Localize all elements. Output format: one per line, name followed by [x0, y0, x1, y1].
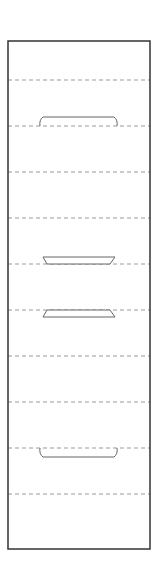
upper-trapezoid-shape	[43, 257, 115, 264]
dashed-fold-lines	[8, 80, 150, 494]
bottom-slot-shape	[40, 448, 117, 457]
diagram-canvas	[0, 0, 159, 574]
top-slot-shape	[40, 117, 117, 126]
lower-trapezoid-shape	[43, 310, 115, 317]
cutout-shapes	[40, 117, 117, 457]
